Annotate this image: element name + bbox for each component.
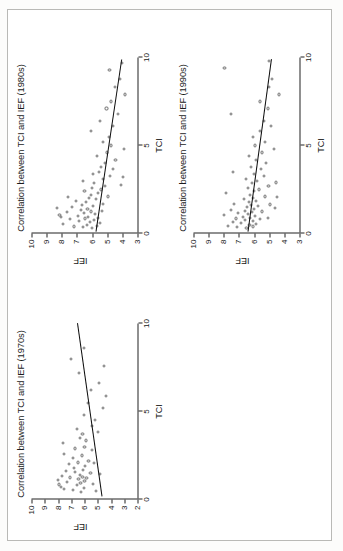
scatter-point [57, 483, 60, 486]
scatter-point [259, 168, 262, 171]
data-area-1970s [31, 324, 137, 500]
x-tick-label: 10 [141, 314, 150, 334]
scatter-point [98, 119, 101, 122]
scatter-point [78, 436, 81, 439]
scatter-point [70, 206, 73, 209]
x-axis-title-1990s: TCI [315, 58, 325, 234]
scatter-point [275, 196, 278, 199]
y-tick-label: 10 [189, 240, 197, 258]
y-tick [284, 234, 285, 238]
scatter-point [72, 466, 75, 469]
scatter-point [86, 215, 89, 218]
scatter-point [89, 193, 92, 196]
y-tick [97, 500, 98, 504]
plot-axes-1970s: TCI IEF 10987654320510 [31, 324, 137, 500]
scatter-plot-1980s: Correlation between TCI and IEF (1980s) … [13, 27, 165, 270]
y-tick [269, 234, 270, 238]
y-tick-label: 6 [80, 506, 88, 524]
scatter-point [75, 484, 78, 487]
y-tick [208, 234, 209, 238]
scatter-point [72, 225, 75, 228]
scatter-point [254, 222, 257, 225]
scatter-point [96, 430, 99, 433]
scatter-point [67, 463, 70, 466]
x-tick-label: 5 [141, 402, 150, 422]
scatter-point [270, 77, 273, 80]
scatter-point [84, 477, 87, 480]
scatter-point [258, 100, 261, 103]
y-tick [84, 500, 85, 504]
y-tick [124, 500, 125, 504]
y-tick-label: 4 [280, 240, 288, 258]
scatter-point [78, 473, 81, 476]
scatter-point [229, 208, 232, 211]
scatter-point [71, 488, 74, 491]
scatter-point [92, 182, 95, 185]
scatter-point [85, 207, 88, 210]
y-tick [223, 234, 224, 238]
scatter-point [92, 219, 95, 222]
scatter-point [90, 449, 93, 452]
scatter-point [80, 204, 83, 207]
scatter-point [91, 482, 94, 485]
scatter-point [89, 389, 92, 392]
scatter-point [268, 203, 271, 206]
scatter-point [96, 191, 99, 194]
scatter-point [269, 125, 272, 128]
y-tick [193, 234, 194, 238]
scatter-point [101, 202, 104, 205]
y-tick-label: 9 [40, 506, 48, 524]
scatter-point [246, 213, 249, 216]
scatter-point [62, 487, 65, 490]
scatter-point [119, 184, 122, 187]
y-tick-label: 5 [103, 240, 111, 258]
scatter-point [224, 191, 227, 194]
scatter-point [81, 468, 84, 471]
scatter-point [250, 182, 253, 185]
scatter-point [81, 226, 84, 229]
scatter-point [231, 170, 234, 173]
scatter-point [62, 452, 65, 455]
scatter-point [266, 107, 269, 110]
scatter-point [236, 212, 239, 215]
y-tick-label: 3 [120, 506, 128, 524]
scatter-point [229, 112, 232, 115]
y-tick [44, 500, 45, 504]
y-tick [137, 500, 138, 504]
scatter-point [60, 474, 63, 477]
scatter-point [116, 112, 119, 115]
scatter-point [245, 206, 248, 209]
scatter-point [90, 186, 93, 189]
y-tick [76, 234, 77, 238]
scatter-point [264, 162, 267, 165]
scatter-point [257, 188, 260, 191]
scatter-point [252, 207, 255, 210]
scatter-point [94, 198, 97, 201]
scatter-point [98, 221, 101, 224]
y-tick [299, 234, 300, 238]
x-tick-label: 0 [303, 224, 312, 244]
scatter-point [68, 218, 71, 221]
scatter-point [81, 179, 84, 182]
x-tick-label: 0 [141, 224, 150, 244]
scatter-point [82, 347, 85, 350]
scatter-point [244, 177, 247, 180]
scatter-point [88, 472, 91, 475]
x-tick-label: 5 [141, 136, 150, 156]
scatter-point [73, 447, 76, 450]
scatter-point [84, 439, 87, 442]
scatter-point [77, 220, 80, 223]
y-tick-label: 4 [118, 240, 126, 258]
scatter-point [254, 199, 257, 202]
scatter-point [266, 216, 269, 219]
scatter-point [82, 212, 85, 215]
x-tick-label: 10 [141, 48, 150, 68]
scatter-point [91, 205, 94, 208]
scatter-point [222, 67, 225, 70]
scatter-point [61, 222, 64, 225]
scatter-point [76, 478, 79, 481]
scatter-point [108, 175, 111, 178]
y-tick-label: 10 [27, 506, 35, 524]
y-tick [31, 500, 32, 504]
scanned-page: Correlation between TCI and IEF (1970s) … [0, 0, 343, 551]
